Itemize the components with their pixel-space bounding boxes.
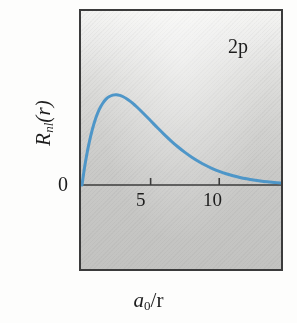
series-annotation-2p: 2p xyxy=(228,36,248,56)
x-axis-label: a0/r xyxy=(0,290,297,312)
plot-canvas xyxy=(81,11,281,269)
curve-2p xyxy=(82,95,281,185)
x-axis-label-rest: /r xyxy=(151,288,164,312)
radial-wavefunction-figure: Rnl(r) 0 5 10 2p a0/r xyxy=(0,0,297,323)
y-axis-label-argument: (r) xyxy=(31,100,55,123)
y-axis-label-main: R xyxy=(31,133,55,146)
x-axis-label-main: a xyxy=(134,288,145,312)
x-tick-label-5: 5 xyxy=(136,190,146,209)
x-tick-label-10: 10 xyxy=(203,190,222,209)
y-axis-label: Rnl(r) xyxy=(33,63,55,183)
plot-frame xyxy=(79,9,283,271)
y-tick-label-0: 0 xyxy=(58,174,68,194)
y-axis-label-subscript: nl xyxy=(41,123,56,133)
